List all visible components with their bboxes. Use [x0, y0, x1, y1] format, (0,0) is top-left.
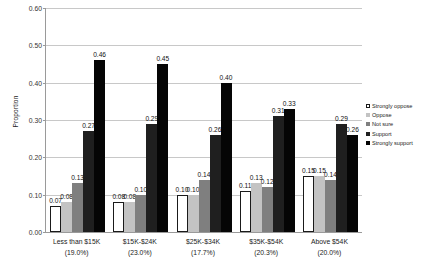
bar-value-label: 0.26 — [209, 127, 222, 134]
x-tick-label-line2: (20.3%) — [235, 248, 298, 259]
legend-item[interactable]: Not sure — [366, 121, 424, 127]
legend-label: Strongly oppose — [372, 103, 412, 109]
bar[interactable] — [303, 176, 314, 232]
bar[interactable] — [113, 202, 124, 232]
y-tick-label: 0.50 — [14, 42, 42, 49]
x-tick-label-line2: (20.0%) — [298, 248, 361, 259]
bar[interactable] — [188, 195, 199, 232]
x-tick-label-line1: Above $54K — [298, 237, 361, 248]
bar-slot: 0.10 — [177, 8, 188, 232]
y-tick-label: 0.30 — [14, 117, 42, 124]
bar-value-label: 0.11 — [239, 183, 251, 190]
bar-slot: 0.14 — [199, 8, 210, 232]
bar-value-label: 0.14 — [324, 172, 337, 179]
bar[interactable] — [124, 202, 135, 232]
bar-group: 0.070.080.130.270.46 — [46, 8, 109, 232]
bar-slot: 0.27 — [83, 8, 94, 232]
legend-swatch-icon — [366, 122, 370, 126]
bar-slot: 0.15 — [314, 8, 325, 232]
bar-slot: 0.26 — [347, 8, 358, 232]
bar[interactable] — [284, 109, 295, 232]
bar-slot: 0.10 — [188, 8, 199, 232]
x-tick-label: Above $54K(20.0%) — [298, 237, 361, 258]
bar-slot: 0.40 — [221, 8, 232, 232]
legend-swatch-icon — [366, 113, 370, 117]
x-tick-label-line1: Less than $15K — [45, 237, 108, 248]
bar-slot: 0.08 — [124, 8, 135, 232]
bar-value-label: 0.10 — [187, 187, 200, 194]
y-axis-tick-labels: 0.600.500.400.300.200.100.00 — [14, 4, 42, 236]
legend-swatch-icon — [366, 132, 370, 136]
legend-item[interactable]: Support — [366, 131, 424, 137]
legend-swatch-icon — [366, 104, 370, 108]
x-tick-label-line1: $15K-$24K — [108, 237, 171, 248]
bar[interactable] — [336, 124, 347, 232]
bar[interactable] — [199, 180, 210, 232]
bar-value-label: 0.29 — [145, 116, 158, 123]
bar[interactable] — [61, 202, 72, 232]
bar[interactable] — [325, 180, 336, 232]
bar-value-label: 0.45 — [156, 56, 169, 63]
bar-slot: 0.12 — [262, 8, 273, 232]
bar[interactable] — [262, 187, 273, 232]
legend-label: Not sure — [372, 121, 393, 127]
legend-item[interactable]: Oppose — [366, 112, 424, 118]
legend-label: Support — [372, 131, 392, 137]
bar[interactable] — [314, 176, 325, 232]
bar[interactable] — [177, 195, 188, 232]
y-tick-label: 0.40 — [14, 79, 42, 86]
bar[interactable] — [347, 135, 358, 232]
x-tick-label: $15K-$24K(23.0%) — [108, 237, 171, 258]
bar-slot: 0.29 — [146, 8, 157, 232]
legend-item[interactable]: Strongly oppose — [366, 103, 424, 109]
bar-value-label: 0.08 — [123, 194, 136, 201]
y-tick-label: 0.00 — [14, 229, 42, 236]
bar-value-label: 0.40 — [220, 75, 233, 82]
bar-value-label: 0.10 — [134, 187, 147, 194]
bar-value-label: 0.33 — [283, 101, 296, 108]
bar[interactable] — [72, 183, 83, 232]
bar-group: 0.110.130.120.310.33 — [236, 8, 299, 232]
bar-value-label: 0.27 — [82, 123, 95, 130]
bar[interactable] — [221, 83, 232, 232]
bar[interactable] — [251, 183, 262, 232]
bar-chart: Proportion 0.600.500.400.300.200.100.00 … — [0, 0, 425, 277]
y-tick-label: 0.60 — [14, 5, 42, 12]
legend-label: Strongly support — [372, 140, 413, 146]
chart-legend: Strongly opposeOpposeNot sureSupportStro… — [366, 103, 424, 149]
bar[interactable] — [83, 131, 94, 232]
bar-slot: 0.15 — [303, 8, 314, 232]
bar[interactable] — [146, 124, 157, 232]
bar-slot: 0.13 — [251, 8, 262, 232]
axis-baseline — [46, 232, 362, 233]
x-tick-label-line2: (17.7%) — [171, 248, 234, 259]
bar-group: 0.150.150.140.290.26 — [299, 8, 362, 232]
bar-slot: 0.45 — [157, 8, 168, 232]
bar-slot: 0.08 — [61, 8, 72, 232]
bar[interactable] — [94, 60, 105, 232]
bar-value-label: 0.14 — [198, 172, 211, 179]
bar-slot: 0.11 — [240, 8, 251, 232]
bar[interactable] — [273, 116, 284, 232]
y-tick-label: 0.10 — [14, 191, 42, 198]
x-tick-label-line1: $25K-$34K — [171, 237, 234, 248]
bar-slot: 0.13 — [72, 8, 83, 232]
x-tick-label: $35K-$54K(20.3%) — [235, 237, 298, 258]
bar[interactable] — [135, 195, 146, 232]
legend-label: Oppose — [372, 112, 392, 118]
bar[interactable] — [157, 64, 168, 232]
bar-value-label: 0.26 — [346, 127, 359, 134]
bar-value-label: 0.08 — [60, 194, 73, 201]
bar-slot: 0.31 — [273, 8, 284, 232]
bar-value-label: 0.46 — [93, 52, 106, 59]
bar[interactable] — [50, 206, 61, 232]
bar[interactable] — [210, 135, 221, 232]
bar[interactable] — [240, 191, 251, 232]
bar-value-label: 0.12 — [261, 179, 274, 186]
x-tick-label: Less than $15K(19.0%) — [45, 237, 108, 258]
plot-area: 0.070.080.130.270.460.080.080.100.290.45… — [45, 8, 361, 232]
x-axis-tick-labels: Less than $15K(19.0%)$15K-$24K(23.0%)$25… — [45, 237, 361, 258]
x-tick-label: $25K-$34K(17.7%) — [171, 237, 234, 258]
legend-swatch-icon — [366, 141, 370, 145]
legend-item[interactable]: Strongly support — [366, 140, 424, 146]
